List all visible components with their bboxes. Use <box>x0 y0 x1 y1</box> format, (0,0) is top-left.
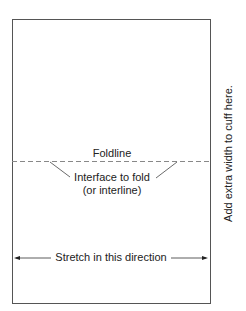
foldline-label: Foldline <box>62 147 162 160</box>
cuff-width-note: Add extra width to cuff here. <box>222 72 235 236</box>
arrow-left-icon <box>14 256 20 260</box>
interface-label-line1: Interface to fold <box>62 171 162 184</box>
stretch-label: Stretch in this direction <box>51 251 171 264</box>
arrow-right-icon <box>202 256 208 260</box>
interface-label-line2: (or interline) <box>62 184 162 197</box>
